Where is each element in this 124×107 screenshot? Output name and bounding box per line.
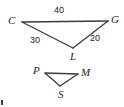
segment-CG <box>22 21 108 22</box>
vertex-label-G: G <box>111 14 119 25</box>
page-edge-artifact <box>1 100 3 105</box>
geometry-figure: C G L 40 30 20 P M S <box>0 0 124 107</box>
triangle-PMS-lines <box>45 73 78 86</box>
vertex-label-P: P <box>33 65 40 76</box>
side-length-GL: 20 <box>90 34 100 43</box>
side-length-CL: 30 <box>30 36 40 45</box>
segment-MS <box>60 74 78 86</box>
segment-PM <box>45 73 78 74</box>
vertex-label-M: M <box>81 67 90 78</box>
segment-PS <box>45 73 60 86</box>
vertex-label-L: L <box>70 51 76 62</box>
vertex-label-C: C <box>8 15 15 26</box>
vertex-label-S: S <box>58 89 64 100</box>
side-length-CG: 40 <box>54 6 64 15</box>
